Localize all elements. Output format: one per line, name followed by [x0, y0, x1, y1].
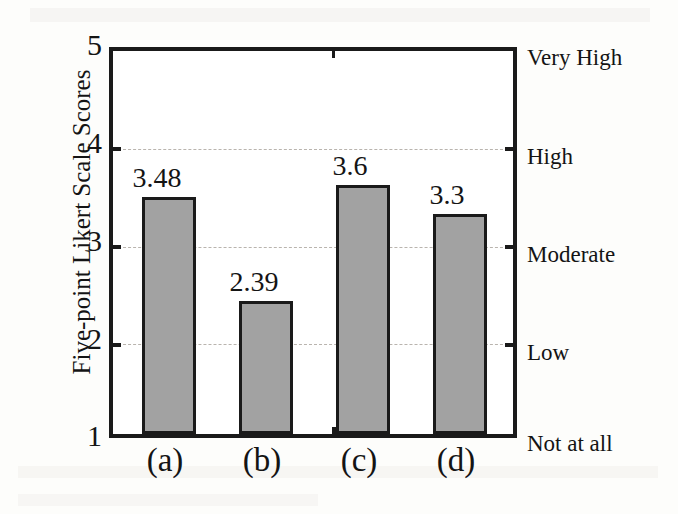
- x-tick-label-b: (b): [218, 444, 306, 477]
- y-tick-label-4: 4: [62, 128, 102, 158]
- y-tick-mark-3: [112, 245, 121, 249]
- bar-value-label-c: 3.6: [304, 152, 396, 180]
- x-tick-label-a: (a): [121, 444, 209, 477]
- bar-value-label-a: 3.48: [108, 164, 206, 192]
- top-tick-artifact: [332, 51, 335, 58]
- x-axis-tick-labels: (a) (b) (c) (d): [109, 444, 517, 496]
- bar-b[interactable]: [239, 301, 293, 434]
- gridline-4: [113, 149, 513, 150]
- y-tick-label-2: 2: [62, 324, 102, 354]
- y-tick-label-5: 5: [62, 30, 102, 60]
- y-tick-mark-4: [112, 147, 121, 151]
- scale-label-high: High: [527, 145, 573, 168]
- scale-label-moderate: Moderate: [527, 243, 615, 266]
- y-tick-label-3: 3: [62, 226, 102, 256]
- bar-a[interactable]: [142, 197, 196, 434]
- bar-value-label-b: 2.39: [205, 268, 303, 296]
- plot-area: [109, 47, 517, 438]
- scale-label-low: Low: [527, 341, 569, 364]
- y-tick-label-1: 1: [62, 421, 102, 451]
- secondary-tick-mark-2: [505, 343, 514, 347]
- secondary-tick-mark-4: [505, 147, 514, 151]
- y-axis-tick-labels: 5 4 3 2 1: [58, 0, 102, 514]
- secondary-tick-mark-3: [505, 245, 514, 249]
- x-tick-label-c: (c): [315, 444, 403, 477]
- y-tick-mark-2: [112, 343, 121, 347]
- scale-label-very-high: Very High: [527, 46, 622, 69]
- bar-d[interactable]: [433, 214, 487, 434]
- bar-c[interactable]: [336, 185, 390, 434]
- secondary-axis-labels: Very High High Moderate Low Not at all: [527, 0, 678, 514]
- x-tick-label-d: (d): [412, 444, 500, 477]
- bar-chart-figure: Five-point Likert Scale Scores 5 4 3 2 1: [0, 0, 678, 514]
- scale-label-not-at-all: Not at all: [527, 432, 613, 455]
- bar-value-label-d: 3.3: [401, 181, 493, 209]
- plot-inner: [113, 51, 513, 434]
